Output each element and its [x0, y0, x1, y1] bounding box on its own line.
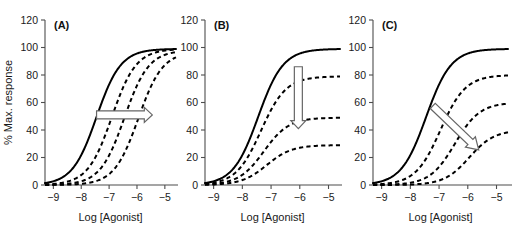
x-tick-label: −7	[103, 191, 115, 203]
y-tick-label: 80	[186, 69, 198, 81]
y-tick-label: 20	[26, 151, 38, 163]
dose-response-curve	[205, 49, 340, 183]
panel-c-mixed-antagonism: 020406080100120−9−8−7−6−5Log [Agonist](C…	[340, 0, 512, 230]
y-tick-label: 100	[20, 41, 38, 53]
x-tick-label: −5	[491, 191, 503, 203]
y-tick-label: 80	[354, 69, 366, 81]
y-tick-label: 80	[26, 69, 38, 81]
y-tick-label: 120	[20, 14, 38, 26]
x-tick-label: −5	[159, 191, 171, 203]
y-tick-label: 120	[180, 14, 198, 26]
x-tick-label: −8	[404, 191, 416, 203]
x-tick-label: −8	[236, 191, 248, 203]
x-tick-label: −6	[462, 191, 474, 203]
downward-depression-arrow	[291, 67, 306, 129]
x-tick-label: −6	[131, 191, 143, 203]
x-tick-label: −8	[75, 191, 87, 203]
panel-a-competitive-antagonism: 020406080100120−9−8−7−6−5Log [Agonist]% …	[0, 0, 178, 230]
y-tick-label: 20	[354, 151, 366, 163]
dose-response-curve	[205, 118, 340, 185]
y-tick-label: 20	[186, 151, 198, 163]
y-tick-label: 0	[192, 179, 198, 191]
y-tick-label: 60	[26, 96, 38, 108]
x-tick-label: −7	[265, 191, 277, 203]
panel-b-noncompetitive-antagonism: 020406080100120−9−8−7−6−5Log [Agonist](B…	[172, 0, 342, 230]
y-tick-label: 0	[360, 179, 366, 191]
x-axis-title: Log [Agonist]	[78, 211, 142, 223]
y-tick-label: 40	[26, 124, 38, 136]
x-axis-title: Log [Agonist]	[240, 211, 304, 223]
x-tick-label: −9	[47, 191, 59, 203]
x-tick-label: −7	[433, 191, 445, 203]
dose-response-curve	[205, 77, 340, 184]
y-tick-label: 100	[180, 41, 198, 53]
y-tick-label: 60	[186, 96, 198, 108]
y-tick-label: 0	[32, 179, 38, 191]
y-tick-label: 40	[354, 124, 366, 136]
x-tick-label: −9	[208, 191, 220, 203]
y-axis-title: % Max. response	[2, 60, 14, 145]
x-tick-label: −5	[323, 191, 335, 203]
y-tick-label: 120	[348, 14, 366, 26]
panel-label: (C)	[382, 19, 398, 31]
y-tick-label: 40	[186, 124, 198, 136]
panel-label: (A)	[54, 19, 70, 31]
x-tick-label: −9	[376, 191, 388, 203]
dose-response-figure: 020406080100120−9−8−7−6−5Log [Agonist]% …	[0, 0, 512, 230]
dose-response-curve	[373, 75, 508, 184]
panel-label: (B)	[214, 19, 230, 31]
x-axis-title: Log [Agonist]	[408, 211, 472, 223]
x-tick-label: −6	[294, 191, 306, 203]
y-tick-label: 100	[348, 41, 366, 53]
dose-response-curve	[205, 145, 340, 184]
y-tick-label: 60	[354, 96, 366, 108]
